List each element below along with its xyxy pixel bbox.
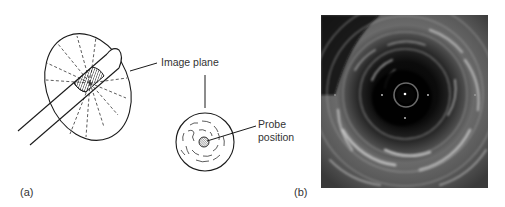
panel-b-label: (b) [294,186,307,199]
panel-b-ultrasound-image [0,0,505,207]
